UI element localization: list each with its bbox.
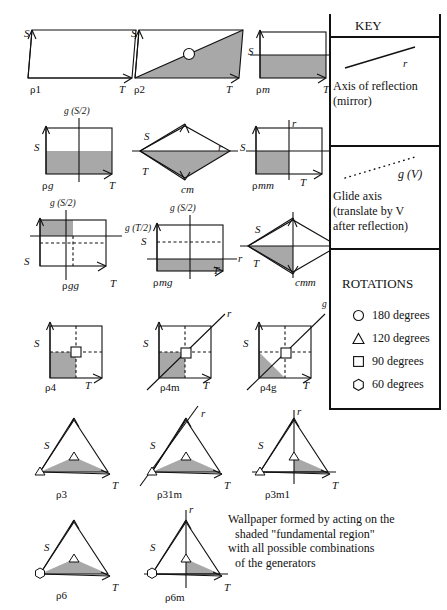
p2-label-name: ρ2 bbox=[134, 84, 145, 95]
cell-pm bbox=[246, 22, 338, 84]
cell-pgg bbox=[26, 210, 132, 282]
p6m-rotation-120-icon bbox=[181, 554, 191, 562]
pgg-label-name-rho: ρ bbox=[62, 280, 68, 291]
key-mirror-line2: (mirror) bbox=[333, 95, 372, 109]
p3-label-T: T bbox=[112, 480, 118, 491]
p6m-label-S: S bbox=[150, 542, 156, 553]
p6-rotation-60-icon bbox=[36, 568, 45, 578]
pgg-shaded-region bbox=[40, 220, 73, 236]
pmm-shaded-region bbox=[256, 151, 289, 174]
pmg-label-glide: g (S/2) bbox=[170, 204, 196, 214]
p4g-diagram bbox=[245, 312, 341, 392]
pmm-label-S: S bbox=[240, 142, 246, 153]
cm-label-name: cm bbox=[181, 184, 194, 195]
key-rotation-label-180: 180 degrees bbox=[372, 308, 430, 323]
pg-label-T: T bbox=[109, 180, 115, 191]
p31m-label-r: r bbox=[201, 408, 205, 419]
key-glide-glyph-label-text: g (V) bbox=[398, 167, 422, 181]
key-title: KEY bbox=[355, 18, 382, 34]
p4g-label-name: ρ4g bbox=[260, 382, 277, 393]
p2-label-S: S bbox=[131, 28, 137, 39]
pgg-diagram bbox=[26, 210, 132, 282]
pg-label-S: S bbox=[34, 142, 40, 153]
triangle-icon bbox=[352, 332, 365, 345]
pmg-label-name-rho: ρ bbox=[153, 277, 159, 288]
pmg-label-name-rest: mg bbox=[159, 277, 172, 288]
key-rotation-row-60: 60 degrees bbox=[352, 377, 424, 392]
mirror-glyph-icon bbox=[341, 42, 429, 72]
p1-lattice-outline bbox=[28, 30, 136, 78]
p3m1-label-r: r bbox=[297, 406, 301, 417]
p3m1-rotation-120-icon-center bbox=[289, 452, 299, 460]
p3-diagram bbox=[26, 412, 126, 486]
p4-rotation-90-icon bbox=[71, 347, 81, 357]
p4m-label-T: T bbox=[203, 380, 209, 391]
p2-label-T: T bbox=[226, 84, 232, 95]
p6-label-T: T bbox=[112, 582, 118, 593]
key-separator-3 bbox=[329, 248, 441, 250]
p4g-rotation-90-icon bbox=[281, 348, 291, 358]
cell-p1 bbox=[22, 22, 142, 84]
p2-diagram bbox=[129, 22, 251, 84]
pg-label-name-rest: g bbox=[48, 180, 54, 191]
pmm-label-T: T bbox=[300, 177, 306, 188]
pmg-label-T: T bbox=[213, 265, 219, 276]
p3-label-name: ρ3 bbox=[56, 489, 67, 500]
pg-label-glide: g (S/2) bbox=[64, 107, 90, 117]
p31m-diagram bbox=[132, 406, 236, 488]
p1-diagram bbox=[22, 22, 142, 84]
pm-label-name-rest: m bbox=[262, 84, 270, 95]
pm-diagram bbox=[246, 22, 338, 84]
p4m-label-name: ρ4m bbox=[160, 382, 180, 393]
caption-line-4: of the generators bbox=[228, 556, 443, 571]
p1-label-name: ρ1 bbox=[30, 84, 41, 95]
key-rotation-row-120: 120 degrees bbox=[352, 331, 430, 346]
cmm-label-T: T bbox=[253, 258, 259, 269]
key-rotation-row-90: 90 degrees bbox=[352, 354, 424, 369]
key-rotation-label-120: 120 degrees bbox=[372, 331, 430, 346]
cell-p31m bbox=[132, 406, 236, 488]
caption-line-2: shaded "fundamental region" bbox=[228, 527, 443, 542]
pgg-label-T: T bbox=[110, 278, 116, 289]
p6m-label-T: T bbox=[224, 582, 230, 593]
key-rotation-label-90: 90 degrees bbox=[372, 354, 424, 369]
p4-label-T: T bbox=[85, 380, 91, 391]
p3-label-S: S bbox=[44, 440, 50, 451]
p1-label-S: S bbox=[24, 28, 30, 39]
p4-label-S: S bbox=[34, 338, 40, 349]
p3m1-label-name: ρ3m1 bbox=[265, 489, 290, 500]
cm-label-T: T bbox=[142, 166, 148, 177]
p31m-label-name: ρ31m bbox=[157, 489, 182, 500]
key-separator-2 bbox=[329, 145, 441, 147]
p6-rotation-120-icon bbox=[69, 554, 79, 562]
pmm-label-r-vertical: r bbox=[292, 118, 296, 129]
pgg-label-S: S bbox=[24, 256, 30, 267]
p3m1-rotation-120-icon-left bbox=[255, 467, 265, 475]
cell-p4g bbox=[245, 312, 341, 392]
p6m-label-name: ρ6m bbox=[165, 592, 185, 603]
square-icon bbox=[352, 355, 365, 368]
p31m-label-T: T bbox=[224, 480, 230, 491]
key-separator-1 bbox=[329, 36, 441, 38]
p1-label-T: T bbox=[119, 84, 125, 95]
p3-rotation-120-icon-center bbox=[69, 452, 79, 460]
pm-label-S: S bbox=[248, 46, 254, 57]
cm-shaded-region bbox=[140, 151, 230, 178]
hexagon-icon bbox=[352, 378, 365, 391]
p6-diagram bbox=[26, 512, 126, 588]
cm-label-S: S bbox=[144, 131, 150, 142]
p4-diagram bbox=[36, 316, 120, 386]
caption-line-3: with all possible combinations bbox=[228, 541, 443, 556]
pmm-diagram bbox=[242, 118, 338, 184]
p31m-rotation-120-icon-center bbox=[181, 452, 191, 460]
p6-label-S: S bbox=[44, 542, 50, 553]
cmm-label-name: cmm bbox=[295, 277, 316, 288]
key-glide-line1: Glide axis bbox=[333, 190, 382, 204]
cell-pmm bbox=[242, 118, 338, 184]
pg-diagram bbox=[32, 118, 124, 184]
key-mirror-glyph-label: r bbox=[403, 58, 407, 69]
caption-line-1: Wallpaper formed by acting on the bbox=[228, 512, 443, 527]
cell-p6m bbox=[132, 504, 236, 590]
p6m-label-r: r bbox=[189, 504, 193, 515]
cell-pmg bbox=[143, 215, 243, 281]
